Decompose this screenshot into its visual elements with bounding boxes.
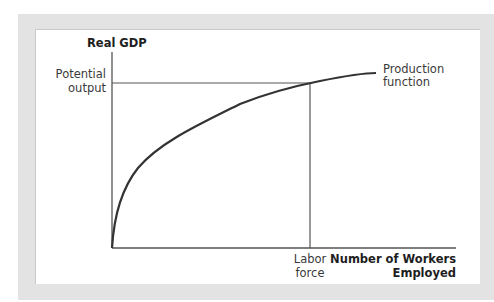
labor-force-label-2: force (290, 266, 330, 280)
potential-output-label-1: Potential (56, 67, 106, 81)
y-axis-title: Real GDP (87, 36, 147, 50)
x-axis-title-1: Number of Workers (330, 252, 456, 266)
potential-output-label-2: output (68, 81, 106, 95)
production-function-curve (112, 73, 376, 248)
labor-force-label-1: Labor (290, 252, 330, 266)
x-axis-title-2: Employed (393, 266, 456, 280)
production-function-label-2: function (383, 75, 430, 89)
production-function-label-1: Production (383, 62, 444, 76)
